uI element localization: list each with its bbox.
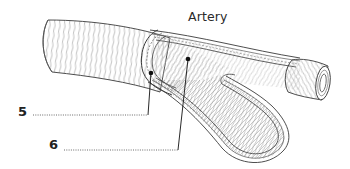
artery-branch-lower	[148, 74, 289, 162]
label-6: 6	[49, 137, 58, 152]
artery-trunk	[43, 20, 170, 92]
artery-diagram: Artery 5 6	[0, 0, 350, 169]
diagram-title: Artery	[188, 9, 227, 24]
artery-end-cylinder	[285, 59, 332, 101]
label-5: 5	[18, 104, 27, 119]
